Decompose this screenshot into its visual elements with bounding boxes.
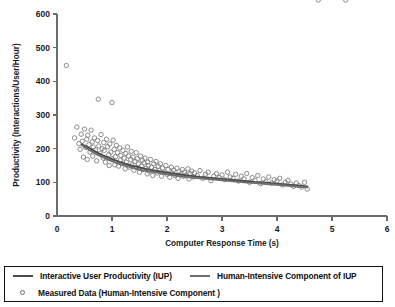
legend-label-measured: Measured Data (Human-Intensive Component… [38, 288, 220, 298]
axis-titles-group: Computer Response Time (s)Productivity (… [12, 43, 279, 248]
scatter-point [234, 172, 238, 176]
scatter-point [80, 139, 84, 143]
scatter-point [302, 180, 306, 184]
scatter-point [64, 63, 68, 67]
x-axis-title: Computer Response Time (s) [165, 239, 279, 248]
scatter-point [72, 136, 76, 140]
y-axis-group: 0100200300400500600 [36, 9, 57, 221]
scatter-point [129, 149, 133, 153]
scatter-point [261, 177, 265, 181]
scatter-point [245, 171, 249, 175]
chart-plot-area: 0100200300400500600 0123456 Computer Res… [0, 0, 395, 260]
line-swatch-icon [190, 275, 210, 277]
scatter-point [110, 100, 114, 104]
scatter-point [96, 138, 100, 142]
scatter-point [134, 151, 138, 155]
x-tick-label: 1 [110, 224, 115, 234]
x-tick-label: 5 [330, 224, 335, 234]
scatter-point [89, 128, 93, 132]
scatter-point [267, 175, 271, 179]
x-tick-label: 3 [220, 224, 225, 234]
scatter-point [169, 165, 173, 169]
scatter-point [94, 159, 98, 163]
scatter-point [82, 127, 86, 131]
legend-row-2: Measured Data (Human-Intensive Component… [5, 284, 382, 301]
scatter-point [225, 170, 229, 174]
legend-entry-iup: Interactive User Productivity (IUP) [13, 271, 172, 281]
legend-entry-hic: Human-Intensive Component of IUP [190, 271, 357, 281]
scatter-point [91, 154, 95, 158]
scatter-point [278, 176, 282, 180]
y-tick-label: 200 [36, 144, 50, 154]
y-tick-label: 100 [36, 177, 50, 187]
scatter-point [124, 151, 128, 155]
scatter-point [96, 97, 100, 101]
scatter-point [86, 133, 90, 137]
y-tick-label: 600 [36, 9, 50, 19]
scatter-points-group [64, 0, 348, 191]
scatter-point [111, 138, 115, 142]
scatter-point [78, 147, 82, 151]
scatter-point [138, 154, 142, 158]
x-tick-label: 6 [385, 224, 390, 234]
scatter-point [103, 160, 107, 164]
scatter-point [214, 171, 218, 175]
chart-legend: Interactive User Productivity (IUP) Huma… [4, 266, 383, 302]
circle-marker-icon [20, 290, 25, 295]
scatter-point [85, 157, 89, 161]
scatter-point [125, 145, 129, 149]
scatter-point [256, 173, 260, 177]
scatter-point [104, 137, 108, 141]
chart-figure: 0100200300400500600 0123456 Computer Res… [0, 0, 395, 307]
x-tick-label: 0 [55, 224, 60, 234]
scatter-point [250, 175, 254, 179]
scatter-point [143, 156, 147, 160]
legend-row-1: Interactive User Productivity (IUP) Huma… [5, 267, 382, 284]
scatter-point [220, 173, 224, 177]
legend-label-hic: Human-Intensive Component of IUP [217, 271, 357, 281]
legend-entry-measured: Measured Data (Human-Intensive Component… [13, 288, 220, 298]
legend-label-iup: Interactive User Productivity (IUP) [40, 271, 172, 281]
y-tick-label: 300 [36, 110, 50, 120]
line-swatch-icon [13, 275, 33, 277]
scatter-point [75, 125, 79, 129]
scatter-point [316, 0, 320, 2]
scatter-point [148, 157, 152, 161]
x-tick-label: 4 [275, 224, 280, 234]
scatter-point [159, 174, 163, 178]
scatter-point [239, 174, 243, 178]
y-tick-label: 0 [45, 211, 50, 221]
y-tick-label: 400 [36, 76, 50, 86]
y-axis-title: Productivity (Interactions/User/Hour) [12, 43, 21, 187]
x-tick-label: 2 [165, 224, 170, 234]
x-axis-group: 0123456 [55, 216, 390, 234]
scatter-point [198, 168, 202, 172]
scatter-point [107, 163, 111, 167]
y-tick-label: 500 [36, 43, 50, 53]
scatter-point [344, 0, 348, 2]
scatter-point [123, 167, 127, 171]
scatter-point [99, 132, 103, 136]
scatter-point [79, 132, 83, 136]
scatter-point [151, 173, 155, 177]
